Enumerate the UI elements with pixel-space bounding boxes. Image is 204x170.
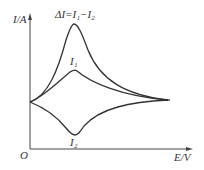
origin-label: O xyxy=(20,150,28,161)
i1-label: I₁ xyxy=(70,56,78,67)
delta-i-label: ΔI=I₁−I₂ xyxy=(55,9,95,20)
y-axis-label: I/A xyxy=(13,14,26,25)
i1-curve xyxy=(30,70,168,102)
i2-label: I₂ xyxy=(70,137,78,148)
i2-curve xyxy=(30,100,168,135)
x-axis-label: E/V xyxy=(174,152,191,163)
y-axis-arrow-icon xyxy=(28,13,32,20)
diagram-canvas xyxy=(0,0,204,170)
delta-i-curve xyxy=(30,24,168,102)
